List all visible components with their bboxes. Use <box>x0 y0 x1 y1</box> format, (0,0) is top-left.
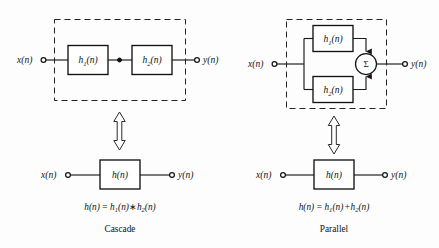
parallel-caption: Parallel <box>320 224 349 234</box>
cascade-input-terminal <box>41 58 46 63</box>
parallel-equation: h(n)=h1(n)+h2(n) <box>299 202 370 213</box>
cascade-output-terminal <box>195 58 200 63</box>
cascade-eq-input-terminal <box>66 173 71 178</box>
cascade-input-label: x(n) <box>16 55 32 66</box>
cascade-eq-input-label: x(n) <box>40 170 56 181</box>
cascade-eq-block-h-label: h(n) <box>112 170 128 181</box>
block-diagram-figure: h1(n) h2(n) x(n) y(n) h(n) <box>0 0 439 248</box>
cascade-junction-dot <box>118 58 122 62</box>
sigma-icon: Σ <box>363 59 368 69</box>
parallel-block-h1-label: h1(n) <box>323 34 342 45</box>
parallel-output-label: y(n) <box>410 59 426 70</box>
cascade-block-h1-label: h1(n) <box>78 55 97 66</box>
cascade-output-label: y(n) <box>202 55 218 66</box>
cascade-block-h2-label: h2(n) <box>142 55 161 66</box>
cascade-eq-output-label: y(n) <box>177 170 193 181</box>
parallel-output-terminal <box>403 62 408 67</box>
parallel-block-h2-label: h2(n) <box>323 85 342 96</box>
parallel-eq-input-terminal <box>281 173 286 178</box>
figure-background <box>0 0 439 248</box>
figure-root: h1(n) h2(n) x(n) y(n) h(n) <box>0 0 439 248</box>
parallel-eq-output-terminal <box>383 173 388 178</box>
cascade-equation: h(n)=h1(n)∗h2(n) <box>84 202 155 213</box>
parallel-eq-output-label: y(n) <box>390 170 406 181</box>
parallel-eq-block-h-label: h(n) <box>326 170 342 181</box>
cascade-eq-output-terminal <box>170 173 175 178</box>
parallel-eq-input-label: x(n) <box>255 170 271 181</box>
parallel-input-label: x(n) <box>247 59 263 70</box>
cascade-caption: Cascade <box>105 224 136 234</box>
parallel-input-terminal <box>272 62 277 67</box>
